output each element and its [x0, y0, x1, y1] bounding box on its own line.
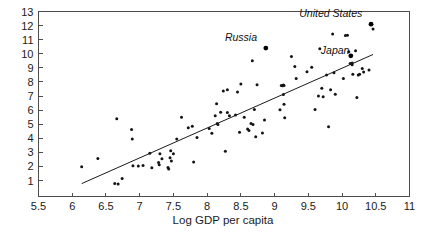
y-tick-label: 3: [27, 146, 33, 158]
scatter-point: [160, 157, 163, 160]
y-tick-label: 5: [27, 118, 33, 130]
scatter-point: [215, 102, 218, 105]
x-tick-label: 6: [69, 200, 75, 212]
scatter-point: [192, 160, 195, 163]
y-tick-label: 11: [22, 34, 33, 46]
scatter-point: [317, 95, 320, 98]
scatter-point: [354, 49, 357, 52]
scatter-plot-figure: 5.566.577.588.599.51010.511 123456789101…: [0, 0, 426, 233]
x-tick-label: 10.5: [365, 200, 386, 212]
scatter-point: [331, 33, 334, 36]
scatter-point: [191, 125, 194, 128]
scatter-point: [310, 66, 313, 69]
scatter-point: [238, 131, 241, 134]
scatter-point: [263, 118, 266, 121]
scatter-point: [131, 164, 134, 167]
x-tick-label: 5.5: [31, 200, 46, 212]
scatter-point: [253, 108, 256, 111]
scatter-point: [224, 150, 227, 153]
scatter-point: [322, 95, 325, 98]
scatter-point: [355, 96, 358, 99]
scatter-point: [142, 164, 145, 167]
x-tick-label: 8: [204, 200, 210, 212]
annotation-label-russia: Russia: [225, 31, 257, 43]
scatter-point: [222, 90, 225, 93]
scatter-point: [368, 68, 371, 71]
y-axis-ticks: [39, 12, 43, 181]
scatter-point: [334, 93, 337, 96]
scatter-point: [278, 108, 281, 111]
scatter-point: [214, 114, 217, 117]
scatter-point: [137, 164, 140, 167]
y-tick-label: 12: [21, 20, 33, 32]
scatter-point: [361, 67, 364, 70]
scatter-point: [175, 137, 178, 140]
y-tick-label: 6: [27, 104, 33, 116]
scatter-point: [251, 59, 254, 62]
y-tick-label: 10: [21, 48, 33, 60]
annotation-label-japan: Japan: [320, 44, 350, 56]
scatter-point: [226, 88, 229, 91]
scatter-point: [342, 77, 345, 80]
scatter-point: [346, 34, 349, 37]
y-tick-label: 7: [27, 90, 33, 102]
y-tick-label: 2: [27, 160, 33, 172]
x-tick-label: 9.5: [301, 200, 316, 212]
scatter-point: [293, 65, 296, 68]
scatter-point-highlighted: [369, 22, 374, 27]
regression-trendline: [82, 54, 373, 183]
x-tick-label: 10: [336, 200, 348, 212]
scatter-point: [96, 157, 99, 160]
scatter-point: [327, 125, 330, 128]
scatter-point: [254, 135, 257, 138]
scatter-point: [131, 137, 134, 140]
scatter-point: [295, 77, 298, 80]
x-axis-ticks: [39, 193, 410, 197]
x-tick-label: 7.5: [166, 200, 181, 212]
scatter-point: [261, 131, 264, 134]
scatter-point: [305, 70, 308, 73]
scatter-point: [290, 55, 293, 58]
scatter-point: [210, 132, 213, 135]
scatter-point: [236, 91, 239, 94]
y-tick-label: 1: [27, 175, 33, 187]
scatter-point: [80, 165, 83, 168]
scatter-point: [219, 111, 222, 114]
scatter-point: [239, 83, 242, 86]
scatter-point: [314, 108, 317, 111]
scatter-point: [329, 88, 332, 91]
scatter-point-highlighted: [263, 46, 268, 51]
scatter-point: [158, 152, 161, 155]
scatter-point: [283, 84, 286, 87]
scatter-point: [358, 73, 361, 76]
point-annotations: United StatesRussiaJapan: [225, 7, 363, 56]
scatter-point: [252, 123, 255, 126]
scatter-point: [362, 71, 365, 74]
plot-canvas: 5.566.577.588.599.51010.511 123456789101…: [0, 0, 426, 233]
y-tick-label: 4: [27, 132, 33, 144]
y-tick-label: 8: [27, 76, 33, 88]
scatter-point: [283, 116, 286, 119]
x-tick-label: 9: [272, 200, 278, 212]
scatter-point: [256, 83, 259, 86]
scatter-point: [121, 177, 124, 180]
scatter-point: [172, 152, 175, 155]
scatter-point: [283, 103, 286, 106]
scatter-point: [228, 114, 231, 117]
x-axis-tick-labels: 5.566.577.588.599.51010.511: [31, 200, 415, 212]
scatter-point: [113, 182, 116, 185]
x-tick-label: 6.5: [98, 200, 113, 212]
scatter-point: [130, 128, 133, 131]
scatter-point: [320, 87, 323, 90]
scatter-point: [187, 126, 190, 129]
scatter-point: [180, 116, 183, 119]
y-tick-label: 13: [21, 6, 33, 18]
scatter-point: [169, 149, 172, 152]
scatter-point: [372, 28, 375, 31]
x-tick-label: 8.5: [233, 200, 248, 212]
scatter-point: [170, 160, 173, 163]
scatter-point: [247, 129, 250, 132]
x-axis-title: Log GDP per capita: [173, 214, 274, 226]
scatter-point: [150, 166, 153, 169]
scatter-point: [243, 116, 246, 119]
